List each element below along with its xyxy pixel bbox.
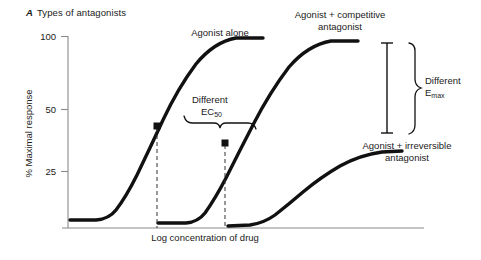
curve-competitive-antagonist [158,41,358,223]
chart-canvas [0,0,481,260]
curve-irreversible-antagonist [228,151,402,226]
ec50-dashed-lines [157,128,225,228]
marker-ec50-competitive [222,140,229,147]
vertical-brace-emax [409,43,421,134]
horizontal-brace-ec50 [184,116,256,129]
figure-panel-a: ATypes of antagonists % Maximal response… [0,0,481,260]
marker-ec50-agonist [154,123,161,130]
ec50-markers [154,123,229,147]
axes [61,36,424,228]
ec50-brace [184,116,256,129]
curves [70,38,402,226]
emax-indicator [381,43,421,134]
curve-agonist-alone [70,38,263,220]
